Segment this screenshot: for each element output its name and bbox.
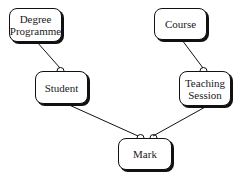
relationship-course-session — [182, 40, 203, 68]
entity-label-line1: Degree — [10, 13, 61, 25]
er-diagram: Degree Programme Course Student Teaching… — [0, 0, 244, 181]
entity-degree-programme: Degree Programme — [9, 8, 62, 42]
entity-student: Student — [35, 71, 88, 104]
entity-teaching-session: Teaching Session — [179, 71, 231, 106]
entity-mark: Mark — [118, 138, 172, 170]
entity-label: Student — [45, 82, 79, 94]
entity-label: Course — [165, 18, 196, 30]
entity-course: Course — [154, 8, 207, 40]
relationship-session-mark — [153, 106, 207, 136]
entity-label: Mark — [133, 148, 157, 160]
relationship-student-mark — [67, 104, 138, 136]
relationship-degree-student — [37, 42, 60, 68]
entity-label-line2: Session — [185, 89, 225, 101]
entity-label-line1: Teaching — [185, 77, 225, 89]
entity-label-line2: Programme — [10, 25, 61, 37]
